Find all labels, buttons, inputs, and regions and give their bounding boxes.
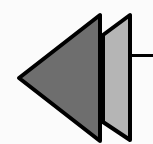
rewind-icon[interactable] <box>0 0 153 144</box>
rewind-icon-graphic <box>0 0 153 144</box>
dark-triangle <box>19 15 100 141</box>
light-triangle <box>103 15 130 140</box>
